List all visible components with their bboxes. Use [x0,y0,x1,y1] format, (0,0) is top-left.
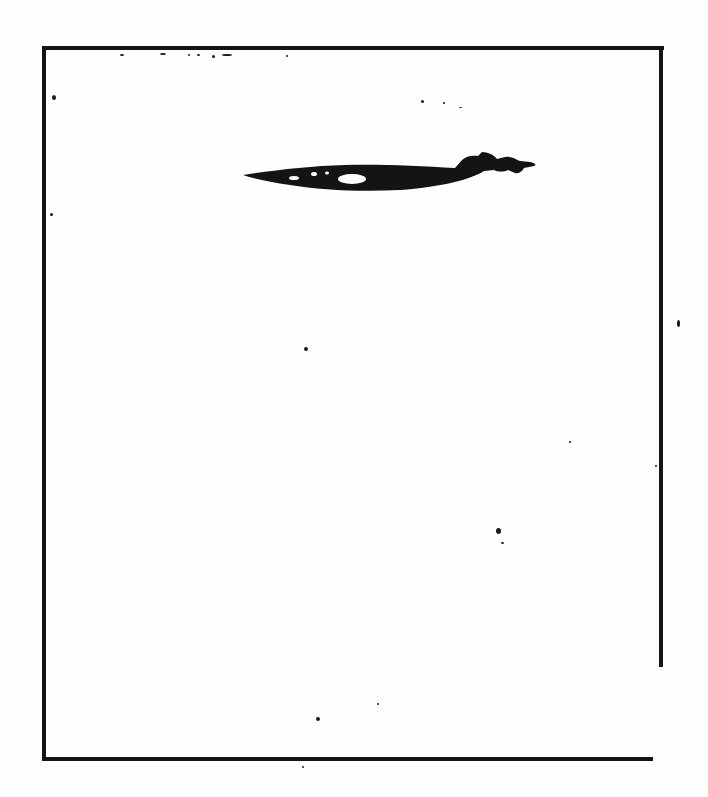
blob-hole-small-3 [325,172,329,175]
scan-speck [496,528,501,534]
scan-speck [443,102,445,104]
elongated-blob-figure [0,0,708,797]
scan-speck [50,213,53,216]
scan-speck [120,54,124,56]
scan-speck [222,54,232,56]
scan-speck [302,766,304,768]
scan-speck [569,441,571,443]
scan-speck [316,717,320,721]
scan-speck [655,465,657,467]
scan-speck [212,55,215,58]
scan-speck [459,107,462,108]
blob-hole-small-2 [311,172,317,176]
blob-body [243,152,535,191]
scan-speck [160,53,166,55]
scanned-page [0,0,708,797]
blob-hole-small-1 [289,176,299,180]
scan-speck [501,542,504,544]
scan-speck [421,100,424,103]
scan-speck [286,55,288,57]
scan-speck [188,54,190,56]
blob-hole-large [338,174,366,184]
scan-speck [52,95,56,100]
scan-speck [677,320,680,327]
scan-speck [377,703,379,705]
scan-speck [304,347,308,351]
scan-speck [197,54,200,56]
